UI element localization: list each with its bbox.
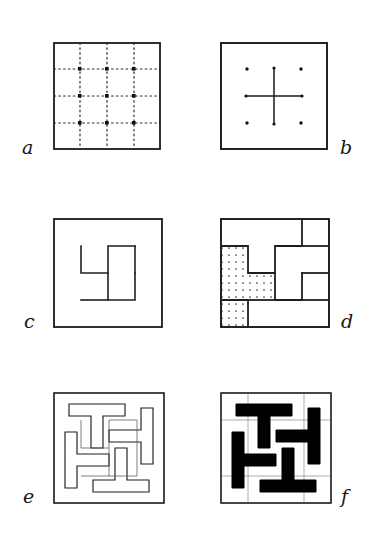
figure-plate: a b c d e f [0, 0, 370, 546]
panel-label-e: e [23, 487, 34, 506]
panel-label-c: c [24, 312, 35, 331]
panel-e-drawing [53, 392, 165, 504]
panel-a [53, 42, 161, 150]
panel-a-drawing [53, 42, 161, 150]
panel-d-stipple-region [222, 246, 248, 326]
panel-label-a: a [22, 138, 33, 157]
panel-f-drawing [220, 392, 332, 504]
panel-c-drawing [53, 218, 163, 328]
panel-e [53, 392, 165, 504]
panel-f [220, 392, 332, 504]
panel-b-drawing [220, 42, 328, 150]
panel-d [220, 218, 330, 328]
panel-label-d: d [341, 312, 353, 331]
panel-label-f: f [341, 487, 348, 506]
panel-b [220, 42, 328, 150]
panel-d-stipple-region-inner [248, 273, 275, 300]
panel-c [53, 218, 163, 328]
panel-d-drawing [220, 218, 330, 328]
panel-label-b: b [340, 138, 352, 157]
